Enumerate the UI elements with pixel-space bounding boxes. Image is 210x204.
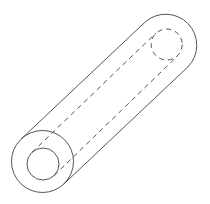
bore-bottom-hidden-edge [54,56,178,176]
outer-top-edge [21,22,145,139]
bore-top-hidden-edge [32,33,156,152]
near-outer-circle [12,131,74,193]
outer-bottom-edge [64,67,188,184]
tube-drawing [0,0,210,204]
diagram-canvas [0,0,210,204]
